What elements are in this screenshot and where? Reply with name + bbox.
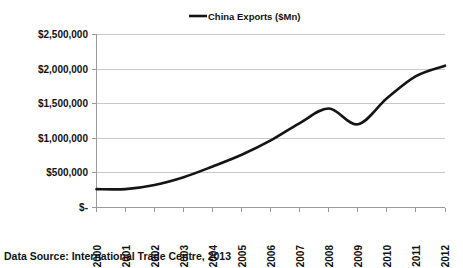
chart-canvas: China Exports ($Mn) $2,500,000 $2 xyxy=(0,0,463,268)
y-tick-label-1500000: $1,500,000 xyxy=(38,98,88,109)
source-note-container: Data Source: International Trade Centre,… xyxy=(0,246,463,268)
y-tick-label-0: $- xyxy=(79,202,88,213)
china-exports-line-chart: China Exports ($Mn) $2,500,000 $2 xyxy=(0,0,463,268)
y-tick-label-2000000: $2,000,000 xyxy=(38,64,88,75)
data-source-note: Data Source: International Trade Centre,… xyxy=(4,250,231,262)
y-tick-label-500000: $500,000 xyxy=(46,167,88,178)
y-tick-label-1000000: $1,000,000 xyxy=(38,133,88,144)
y-tick-label-2500000: $2,500,000 xyxy=(38,29,88,40)
legend-entry-label: China Exports ($Mn) xyxy=(208,11,300,22)
